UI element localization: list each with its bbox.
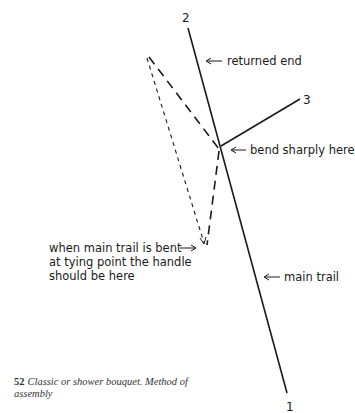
bend-annotation: bend sharply here xyxy=(231,143,355,157)
handle-label-line3: should be here xyxy=(49,269,135,283)
point-label-1: 1 xyxy=(286,400,294,413)
handle-label-line2: at tying point the handle xyxy=(49,255,192,269)
dashed-bend-lower xyxy=(207,151,219,245)
handle-annotation: when main trail is bent at tying point t… xyxy=(49,241,196,283)
figure-number: 52 xyxy=(14,376,25,387)
figure-caption: 52Classic or shower bouquet. Method of a… xyxy=(14,376,189,400)
main-trail-line xyxy=(188,28,287,393)
returned-end-annotation: returned end xyxy=(206,54,302,68)
returned-end-label: returned end xyxy=(227,54,302,68)
main-trail-annotation: main trail xyxy=(264,270,339,284)
handle-label-line1: when main trail is bent xyxy=(49,241,182,255)
handle-arrowhead-icon xyxy=(200,237,206,244)
point-label-3: 3 xyxy=(303,93,311,107)
point-label-2: 2 xyxy=(182,11,190,25)
bend-sharply-label: bend sharply here xyxy=(250,143,355,157)
bouquet-assembly-diagram: 2 3 1 returned end bend sharply here mai… xyxy=(0,0,355,413)
main-trail-label: main trail xyxy=(284,270,339,284)
dotted-handle-path xyxy=(147,58,204,243)
branch-3-line xyxy=(221,99,300,146)
caption-text: Classic or shower bouquet. Method of ass… xyxy=(14,376,188,399)
